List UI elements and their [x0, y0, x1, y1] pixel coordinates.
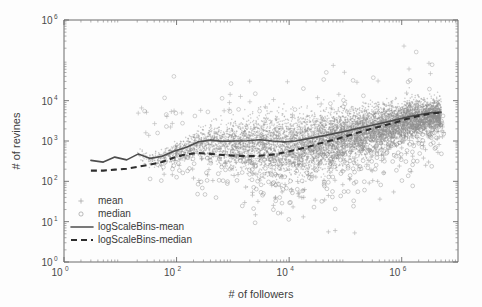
svg-text:4: 4	[54, 94, 58, 101]
svg-text:3: 3	[54, 134, 58, 141]
svg-text:10: 10	[41, 15, 53, 26]
svg-text:10: 10	[41, 176, 53, 187]
svg-text:0: 0	[65, 265, 69, 272]
scatter-plot: 100102104106 100101102103104106 # of fol…	[0, 0, 482, 307]
svg-text:logScaleBins-mean: logScaleBins-mean	[98, 221, 184, 232]
svg-text:# of revines: # of revines	[10, 112, 22, 169]
svg-text:2: 2	[178, 265, 182, 272]
svg-text:10: 10	[41, 136, 53, 147]
svg-text:1: 1	[54, 215, 58, 222]
svg-text:6: 6	[54, 13, 58, 20]
svg-text:10: 10	[277, 267, 289, 278]
svg-text:10: 10	[389, 267, 401, 278]
svg-text:mean: mean	[98, 195, 123, 206]
svg-text:10: 10	[51, 267, 63, 278]
svg-text:10: 10	[41, 257, 53, 268]
svg-text:10: 10	[41, 217, 53, 228]
svg-text:# of followers: # of followers	[229, 288, 294, 300]
svg-text:10: 10	[41, 96, 53, 107]
svg-text:4: 4	[290, 265, 294, 272]
svg-text:2: 2	[54, 174, 58, 181]
chart-figure: 100102104106 100101102103104106 # of fol…	[0, 0, 482, 307]
svg-text:median: median	[98, 208, 131, 219]
y-axis-title: # of revines	[10, 112, 22, 169]
svg-text:6: 6	[403, 265, 407, 272]
x-axis-title: # of followers	[229, 288, 294, 300]
svg-text:0: 0	[54, 255, 58, 262]
svg-text:logScaleBins-median: logScaleBins-median	[98, 234, 192, 245]
svg-text:10: 10	[164, 267, 176, 278]
